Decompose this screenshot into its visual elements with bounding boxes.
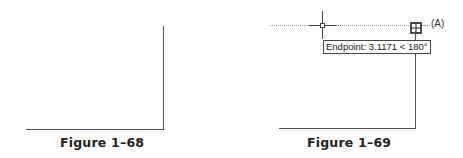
- vertical-line: [163, 26, 164, 130]
- figure-caption: Figure 1–69: [307, 135, 391, 150]
- crosshair-icon: [309, 11, 337, 39]
- point-label: (A): [431, 18, 444, 29]
- horizontal-line: [279, 128, 416, 129]
- horizontal-line: [26, 129, 164, 130]
- figure-caption: Figure 1–68: [60, 135, 144, 150]
- endpoint-snap-icon: [410, 19, 422, 31]
- tracking-line: [270, 25, 425, 26]
- endpoint-tooltip: Endpoint: 3.1171 < 180°: [323, 40, 431, 54]
